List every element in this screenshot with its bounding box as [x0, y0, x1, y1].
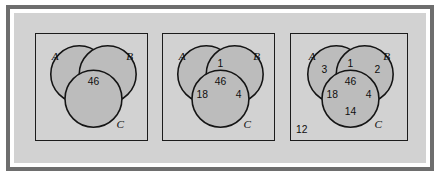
region-count-outside-3: 12 [296, 124, 308, 135]
venn-panels-row: A B C 46 A B [14, 13, 426, 163]
venn-diagram-1: A B C 46 [36, 34, 147, 140]
region-count-abc-3: 46 [345, 76, 357, 87]
set-label-b-2: B [253, 50, 260, 62]
region-count-ac-3: 18 [327, 89, 339, 100]
set-label-b-3: B [383, 50, 390, 62]
figure-inner-white-gap: A B C 46 A B [10, 9, 430, 167]
set-label-a-3: A [308, 50, 316, 62]
figure-content-area: A B C 46 A B [14, 13, 426, 163]
venn-panel-3: A B C 3 1 2 46 18 4 14 12 [290, 33, 408, 141]
region-count-b-only-3: 2 [375, 64, 381, 75]
region-count-ab-2: 1 [218, 58, 224, 69]
region-count-ab-3: 1 [348, 58, 354, 69]
set-label-c-3: C [375, 118, 383, 130]
figure-outer-frame: A B C 46 A B [6, 5, 434, 171]
set-label-c-2: C [244, 118, 252, 130]
region-count-abc-2: 46 [215, 76, 227, 87]
venn-diagram-2: A B C 1 46 18 4 [163, 34, 274, 140]
venn-diagram-3: A B C 3 1 2 46 18 4 14 12 [291, 34, 407, 140]
region-count-bc-3: 4 [366, 89, 372, 100]
set-label-b-1: B [126, 50, 133, 62]
region-count-a-only-3: 3 [322, 64, 328, 75]
region-count-c-only-3: 14 [345, 106, 357, 117]
figure-root: A B C 46 A B [0, 0, 440, 176]
venn-panel-2: A B C 1 46 18 4 [162, 33, 275, 141]
set-label-a-2: A [178, 50, 186, 62]
set-label-c-1: C [117, 118, 125, 130]
region-count-ac-2: 18 [197, 89, 209, 100]
region-count-abc-1: 46 [88, 76, 100, 87]
venn-panel-1: A B C 46 [35, 33, 148, 141]
set-label-a-1: A [51, 50, 59, 62]
region-count-bc-2: 4 [236, 89, 242, 100]
